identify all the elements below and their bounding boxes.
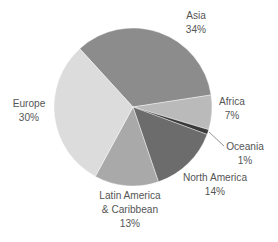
label-europe-pct: 30% [9,110,49,124]
label-europe-name: Europe [9,96,49,110]
label-oceania-pct: 1% [223,153,267,167]
label-asia-name: Asia [178,8,213,22]
label-latin-america: Latin America & Caribbean 13% [95,188,165,230]
label-oceania: Oceania 1% [223,139,267,167]
label-africa: Africa 7% [214,94,249,122]
label-oceania-name: Oceania [223,139,267,153]
label-asia: Asia 34% [178,8,213,36]
label-africa-pct: 7% [214,108,249,122]
label-latin-america-line2: & Caribbean [95,202,165,216]
label-asia-pct: 34% [178,22,213,36]
label-africa-name: Africa [214,94,249,108]
label-north-america-name: North America [180,170,250,184]
label-latin-america-line1: Latin America [95,188,165,202]
label-europe: Europe 30% [9,96,49,124]
label-latin-america-pct: 13% [95,216,165,230]
label-north-america: North America 14% [180,170,250,198]
pie-slices [54,28,212,186]
label-north-america-pct: 14% [180,184,250,198]
oceania-leader-line [209,132,224,146]
